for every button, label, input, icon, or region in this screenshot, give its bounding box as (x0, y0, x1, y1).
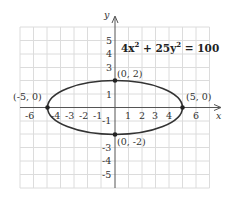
x-tick: 2 (139, 111, 145, 121)
point-label-left: (-5, 0) (13, 92, 42, 102)
y-tick: 3 (106, 63, 112, 73)
x-tick: 1 (125, 111, 131, 121)
y-tick: -3 (102, 143, 111, 153)
x-tick: 3 (152, 111, 158, 121)
y-tick: 1 (106, 90, 112, 100)
point-label-right: (5, 0) (186, 92, 212, 102)
x-tick: -2 (79, 111, 88, 121)
y-tick: 5 (106, 36, 112, 46)
x-tick: 6 (193, 111, 199, 121)
y-tick: 4 (106, 49, 112, 59)
x-tick: -3 (65, 111, 74, 121)
point-label-bottom: (0, -2) (117, 137, 146, 147)
y-axis-label: y (104, 10, 109, 20)
x-tick: 4 (166, 111, 172, 121)
x-tick: -4 (51, 111, 60, 121)
y-tick: -5 (102, 170, 111, 180)
x-tick: -1 (93, 111, 102, 121)
x-tick: -6 (25, 111, 34, 121)
point-label-top: (0, 2) (117, 69, 143, 79)
y-tick: -1 (102, 116, 111, 126)
y-tick: -4 (102, 156, 111, 166)
x-axis-label: x (216, 111, 221, 121)
equation-label: 4x2 + 25y2 = 100 (121, 40, 219, 54)
